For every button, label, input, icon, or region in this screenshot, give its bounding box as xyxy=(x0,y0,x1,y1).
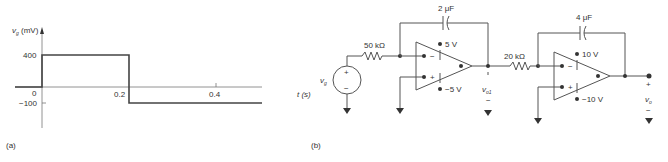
opamp-2-minus: − xyxy=(568,62,573,71)
ground-icon xyxy=(343,108,351,114)
waveform-trace xyxy=(15,55,262,103)
output-terminal xyxy=(647,74,652,79)
source-label: vg xyxy=(320,76,327,86)
supply-dot xyxy=(438,42,442,46)
supply-dot xyxy=(575,97,579,101)
panel-b-label: (b) xyxy=(311,141,321,150)
waveform-plot: vg (mV) 400 0 −100 0.2 0.4 t (s) (a) xyxy=(6,26,311,150)
tick-label-400: 400 xyxy=(23,51,37,60)
tick-label-0: 0 xyxy=(32,89,37,98)
source-minus: − xyxy=(344,84,349,93)
opamp-1-vneg: −5 V xyxy=(445,85,462,94)
y-axis-unit: (mV) xyxy=(21,26,39,35)
resistor-r1-icon xyxy=(362,52,400,60)
vo-minus: − xyxy=(646,106,651,115)
node-dot xyxy=(486,64,490,68)
panel-a-label: (a) xyxy=(6,141,16,150)
wire-feedback-2-left xyxy=(538,33,580,66)
vo1-minus: − xyxy=(486,96,491,105)
c2-label: 4 μF xyxy=(576,13,592,22)
ground-icon xyxy=(484,110,492,116)
opamp-2-vpos: 10 V xyxy=(582,50,599,59)
resistor-r2-icon xyxy=(510,62,538,70)
node-dot xyxy=(623,74,627,78)
opamp-1-minus: − xyxy=(430,52,435,61)
wire-source-r1 xyxy=(347,56,362,66)
opamp-2-vneg: −10 V xyxy=(582,95,604,104)
wire-noninv-2-ground xyxy=(538,87,562,118)
x-axis-label: t (s) xyxy=(297,90,311,99)
opamp-1-icon xyxy=(416,42,472,90)
r1-label: 50 kΩ xyxy=(364,41,385,50)
opamp-2-icon xyxy=(554,52,610,100)
opamp-1-plus: + xyxy=(430,73,435,82)
r2-label: 20 kΩ xyxy=(504,52,525,61)
tick-label-0-4: 0.4 xyxy=(209,90,221,99)
ground-icon xyxy=(396,108,404,114)
opamp-2-plus: + xyxy=(568,83,573,92)
vo1-label: vo1 xyxy=(482,85,492,95)
supply-dot xyxy=(575,52,579,56)
tick-label-0-2: 0.2 xyxy=(114,90,126,99)
ground-icon xyxy=(534,118,542,124)
tick-label-minus-100: −100 xyxy=(19,99,38,108)
vo-plus: + xyxy=(646,80,651,89)
opamp-1-vpos: 5 V xyxy=(445,40,458,49)
pin-dot xyxy=(560,85,564,89)
supply-dot xyxy=(438,87,442,91)
circuit-diagram: + − vg 50 kΩ 2 μF − + 5 V −5 xyxy=(311,4,653,150)
vo-label: vo xyxy=(645,95,652,105)
pin-dot xyxy=(422,75,426,79)
pin-dot xyxy=(560,64,564,68)
y-axis-label: vg xyxy=(12,26,19,36)
ground-icon xyxy=(645,118,653,124)
c1-label: 2 μF xyxy=(438,4,454,13)
pin-dot xyxy=(422,54,426,58)
source-plus: + xyxy=(344,68,349,77)
output-pin-dot xyxy=(459,64,463,68)
wire-noninv-1-ground xyxy=(400,77,424,108)
figure-canvas: vg (mV) 400 0 −100 0.2 0.4 t (s) (a) + −… xyxy=(0,0,668,162)
output-pin-dot xyxy=(596,74,600,78)
y-axis-arrow-icon xyxy=(40,27,44,34)
